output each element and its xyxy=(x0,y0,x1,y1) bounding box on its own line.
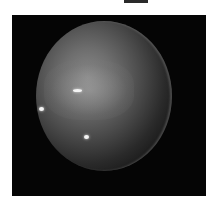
bright-spot-center xyxy=(73,89,82,92)
bright-spot-lower xyxy=(84,135,89,139)
bright-spot-left-limb xyxy=(39,107,44,111)
image-frame xyxy=(12,15,206,196)
top-bar-marker xyxy=(124,0,148,3)
bright-cloud-band xyxy=(44,60,134,120)
